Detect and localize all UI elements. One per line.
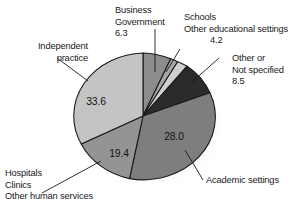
- annotation-schools-line2: Other educational settings: [184, 24, 288, 36]
- annotation-schools: Schools Other educational settings 4.2: [184, 12, 288, 47]
- annotation-independent-practice-line2: practice: [4, 53, 88, 65]
- pie-chart-figure: 33.6 19.4 28.0 Business Government 6.3 S…: [0, 0, 301, 217]
- annotation-business-government: Business Government 6.3: [115, 5, 165, 40]
- annotation-hospitals-clinics-line1: Hospitals: [5, 168, 93, 180]
- annotation-hospitals-clinics-line3: Other human services: [5, 191, 93, 203]
- annotation-academic-settings-line1: Academic settings: [206, 175, 279, 187]
- slice-value-hospitals-clinics: 19.4: [109, 148, 129, 159]
- slice-value-academic-settings: 28.0: [164, 131, 184, 142]
- annotation-other-not-specified-value: 8.5: [232, 76, 284, 88]
- annotation-independent-practice-line1: Independent: [4, 41, 88, 53]
- leader-line-other-not-specified: [191, 58, 219, 83]
- annotation-independent-practice: Independent practice: [4, 41, 88, 64]
- annotation-schools-line1: Schools: [184, 12, 288, 24]
- annotation-other-not-specified-line2: Not specified: [232, 65, 284, 77]
- annotation-business-government-line2: Government: [115, 17, 165, 29]
- annotation-other-not-specified: Other or Not specified 8.5: [232, 53, 284, 88]
- annotation-hospitals-clinics-line2: Clinics: [5, 180, 93, 192]
- annotation-hospitals-clinics: Hospitals Clinics Other human services: [5, 168, 93, 203]
- annotation-schools-value: 4.2: [210, 35, 288, 47]
- annotation-academic-settings: Academic settings: [206, 175, 279, 187]
- pie-slices: [74, 53, 216, 180]
- annotation-other-not-specified-line1: Other or: [232, 53, 284, 65]
- annotation-business-government-value: 6.3: [115, 28, 165, 40]
- annotation-business-government-line1: Business: [115, 5, 165, 17]
- slice-value-independent-practice: 33.6: [86, 96, 106, 107]
